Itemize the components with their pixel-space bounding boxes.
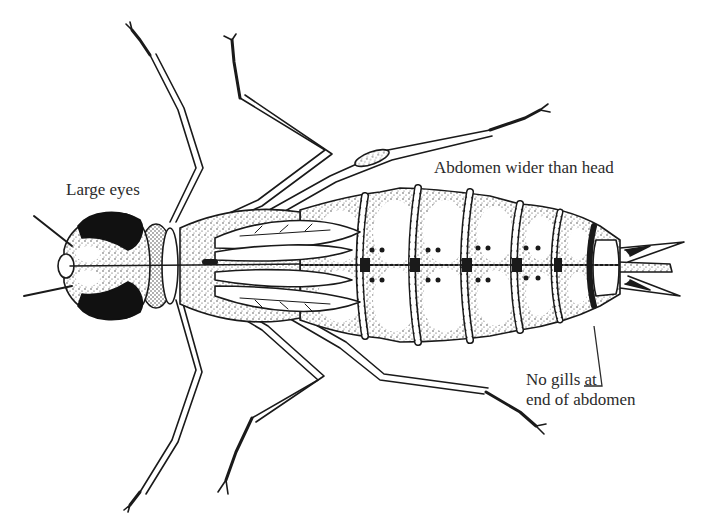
label-abdomen-wider: Abdomen wider than head xyxy=(434,158,614,178)
label-no-gills-line2: end of abdomen xyxy=(526,390,636,410)
label-no-gills-line1: No gills at xyxy=(526,370,636,390)
label-large-eyes: Large eyes xyxy=(66,180,140,200)
leg-mid-lower xyxy=(215,298,324,494)
tail-cerci xyxy=(618,242,684,296)
label-no-gills: No gills at end of abdomen xyxy=(526,370,636,410)
abdomen xyxy=(300,188,620,342)
illustration-canvas xyxy=(0,0,701,529)
leg-mid-upper xyxy=(210,34,332,226)
stonefly-nymph-drawing xyxy=(0,0,701,529)
leg-front-lower xyxy=(124,300,202,512)
